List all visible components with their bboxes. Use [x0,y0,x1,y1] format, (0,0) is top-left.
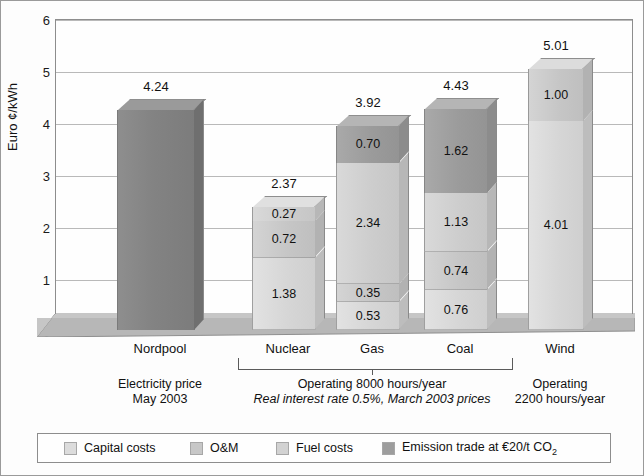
y-tick-label: 2 [43,221,56,236]
bar-segment-spot[interactable] [117,110,195,330]
bar-total-label: 3.92 [336,95,400,110]
segment-value-label: 0.53 [356,309,380,323]
chart-annotations: Electricity priceMay 2003Operating 8000 … [1,377,644,423]
bracket-center-tick [372,369,373,375]
segment-value-label: 0.70 [356,137,380,151]
category-label-wind: Wind [545,341,575,356]
bar-segment-capital[interactable]: 4.01 [528,121,584,330]
legend-item-capital-costs[interactable]: Capital costs [64,441,156,455]
legend-label-subscript: 2 [552,446,557,456]
group-bracket [1,358,644,374]
segment-value-label: 0.27 [272,207,296,221]
category-label-nordpool: Nordpool [134,341,187,356]
thermal-note: Operating 8000 hours/yearReal interest r… [254,377,491,407]
legend-swatch [276,442,289,455]
bar-segment-capital[interactable]: 0.76 [424,290,488,330]
bar-top-face [118,99,206,110]
legend-item-emission-trade-at-20-t-co[interactable]: Emission trade at €20/t CO2 [382,440,557,457]
category-label-coal: Coal [447,341,474,356]
legend-label: O&M [210,441,238,455]
bar-total-label: 4.24 [117,79,195,94]
legend-swatch [64,442,77,455]
segment-value-label: 2.34 [356,216,380,230]
legend-item-fuel-costs[interactable]: Fuel costs [276,441,353,455]
y-tick-label: 6 [43,13,56,28]
y-tick-label: 4 [43,117,56,132]
segment-value-label: 1.13 [444,215,468,229]
segment-value-label: 4.01 [544,218,568,232]
bar-segment-om[interactable]: 0.74 [424,252,488,290]
bar-total-label: 2.37 [252,176,316,191]
bar-side-face [194,98,204,330]
y-tick-label: 3 [43,169,56,184]
y-tick-label: 0 [43,325,56,340]
y-tick-label: 5 [43,65,56,80]
y-tick-label: 1 [43,273,56,288]
segment-value-label: 1.00 [544,88,568,102]
segment-value-label: 0.35 [356,286,380,300]
bar-side-face [487,98,497,193]
segment-value-label: 0.72 [272,232,296,246]
bracket-horizontal [238,369,512,370]
bar-segment-om[interactable]: 0.35 [336,284,400,302]
bar-segment-emission[interactable]: 0.70 [336,126,400,162]
wind-note-line1: Operating [515,377,605,392]
bar-segment-emission[interactable]: 1.62 [424,109,488,193]
plot-area: 0123456 4.240.270.721.382.370.702.340.35… [55,19,633,331]
legend-item-o-m[interactable]: O&M [190,441,238,455]
bar-segment-fuel[interactable]: 1.13 [424,193,488,252]
thermal-note-line2: Real interest rate 0.5%, March 2003 pric… [254,392,491,407]
nordpool-note-line1: Electricity price [118,377,202,392]
bar-total-label: 5.01 [528,38,584,53]
chart-legend: Capital costsO&MFuel costsEmission trade… [37,433,611,463]
bar-segment-fuel[interactable]: 2.34 [336,163,400,285]
gridline [56,20,632,21]
bracket-right-cap [512,358,513,370]
category-label-nuclear: Nuclear [266,341,311,356]
wind-note: Operating2200 hours/year [515,377,605,407]
legend-label: Emission trade at €20/t CO2 [402,440,557,457]
y-axis-title: Euro ¢/kWh [5,83,20,151]
bar-segment-om[interactable]: 0.72 [252,221,316,258]
segment-value-label: 0.76 [444,303,468,317]
nordpool-note-line2: May 2003 [118,392,202,407]
segment-value-label: 0.74 [444,264,468,278]
bar-segment-capital[interactable]: 0.53 [336,302,400,330]
segment-value-label: 1.38 [272,287,296,301]
bar-segment-fuel[interactable]: 0.27 [252,207,316,221]
bracket-left-cap [238,358,239,370]
segment-value-label: 1.62 [444,144,468,158]
bar-side-face [583,110,593,329]
nordpool-note: Electricity priceMay 2003 [118,377,202,407]
legend-label: Fuel costs [296,441,353,455]
bar-side-face [399,151,409,283]
legend-swatch [190,442,203,455]
category-label-gas: Gas [360,341,384,356]
bar-side-face [315,247,325,329]
thermal-note-line1: Operating 8000 hours/year [254,377,491,392]
legend-label: Capital costs [84,441,156,455]
bar-side-face [487,279,497,329]
legend-swatch [382,442,395,455]
bar-segment-om[interactable]: 1.00 [528,69,584,121]
chart-figure: Euro ¢/kWh 0123456 4.240.270.721.382.370… [0,0,644,476]
wind-note-line2: 2200 hours/year [515,392,605,407]
bar-total-label: 4.43 [424,78,488,93]
bar-segment-capital[interactable]: 1.38 [252,258,316,330]
